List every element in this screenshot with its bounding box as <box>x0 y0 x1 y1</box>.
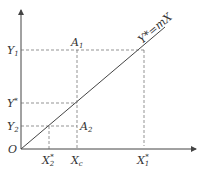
label-a2: A2 <box>79 120 93 134</box>
label-origin: O <box>8 143 17 156</box>
label-xc: Xc <box>70 154 83 168</box>
label-x1star: X1* <box>136 153 149 168</box>
label-x2star: X2* <box>41 153 55 168</box>
label-y1: Y1 <box>7 44 19 58</box>
label-ystar: Y* <box>7 97 18 110</box>
line-label: Y*=mX <box>136 10 176 47</box>
label-y2: Y2 <box>7 120 19 134</box>
diagram-canvas: Y*=mX Y1 Y* Y2 O X2* Xc X1* A1 A2 <box>0 0 203 173</box>
label-a1: A1 <box>70 36 83 50</box>
